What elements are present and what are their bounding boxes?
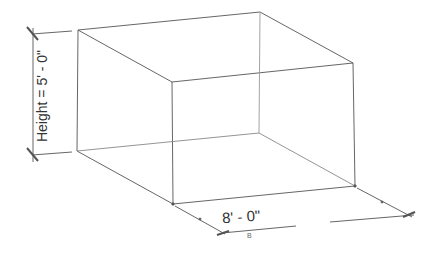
edge-bottom-right	[259, 133, 355, 186]
box-diagram: Height = 5' - 0" 8' - 0" B	[0, 0, 428, 253]
width-label: 8' - 0"	[221, 207, 260, 227]
edge-bottom-back	[77, 133, 259, 151]
edge-back-left	[77, 30, 78, 151]
reference-mark: B	[247, 232, 252, 239]
box-top-face	[78, 12, 353, 82]
edge-front-right	[353, 63, 355, 186]
edge-back-right-hidden	[259, 12, 260, 133]
edge-front-left	[172, 82, 173, 204]
height-label: Height = 5' - 0"	[34, 46, 50, 146]
box-wireframe	[0, 0, 428, 253]
edge-bottom-front	[173, 186, 355, 204]
edge-bottom-left	[77, 151, 173, 204]
